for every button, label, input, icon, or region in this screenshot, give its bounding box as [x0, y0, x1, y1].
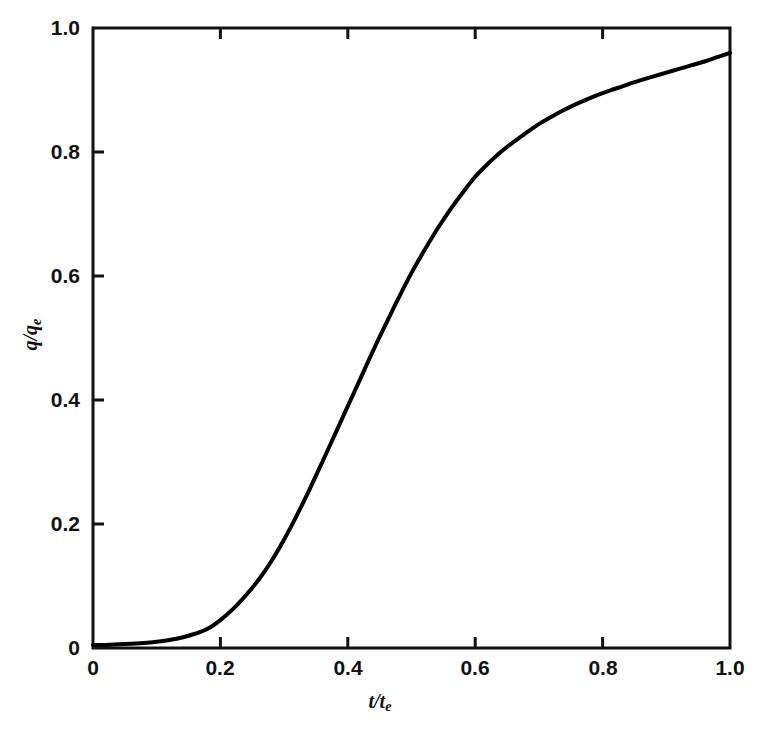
axes-frame [93, 28, 730, 648]
y-axis-title: q/qe [19, 275, 44, 395]
x-tick-label-0.8: 0.8 [573, 656, 633, 680]
x-tick-label-1.0: 1.0 [700, 656, 760, 680]
x-axis-title: t/te [0, 690, 760, 715]
y-tick-label-0.8: 0.8 [20, 140, 80, 164]
x-tick-label-0.2: 0.2 [190, 656, 250, 680]
x-axis-title-main: t/t [368, 690, 385, 712]
plot-border [93, 28, 730, 648]
y-tick-label-0.2: 0.2 [20, 512, 80, 536]
y-tick-label-1.0: 1.0 [20, 16, 80, 40]
data-series-line [93, 53, 730, 645]
x-tick-label-0: 0 [63, 656, 123, 680]
plot-canvas [0, 0, 760, 738]
y-axis-title-main: q/q [19, 325, 41, 351]
tick-marks [93, 28, 603, 648]
x-tick-label-0.6: 0.6 [445, 656, 505, 680]
x-tick-label-0.4: 0.4 [318, 656, 378, 680]
x-axis-title-subscript: e [385, 698, 391, 714]
y-axis-title-subscript: e [28, 319, 44, 325]
chart-figure: 1.0 0.8 0.6 0.4 0.2 0 0 0.2 0.4 0.6 0.8 … [0, 0, 760, 738]
